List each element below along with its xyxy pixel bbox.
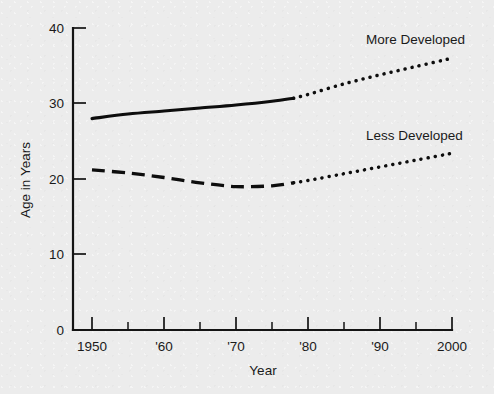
x-tick-label-2000: 2000 (437, 339, 467, 354)
x-tick-label-1980: '80 (299, 339, 317, 354)
x-tick-label-1960: '60 (155, 339, 173, 354)
y-axis-title: Age in Years (18, 142, 33, 218)
y-tick-label-20: 20 (49, 172, 64, 187)
series-annotation-more-developed: More Developed (366, 32, 465, 47)
x-tick-label-1970: '70 (227, 339, 245, 354)
y-tick-label-40: 40 (49, 21, 64, 36)
y-tick-label-0: 0 (56, 323, 64, 338)
series-annotation-less-developed: Less Developed (366, 128, 463, 143)
y-tick-label-30: 30 (49, 96, 64, 111)
chart-figure: 40 30 20 10 0 Age in Years 1950 '60 '70 (0, 0, 494, 394)
line-chart-plot: 40 30 20 10 0 Age in Years 1950 '60 '70 (0, 0, 494, 394)
series-less-developed-actual-line (92, 170, 294, 187)
x-axis-ticks (92, 317, 452, 330)
x-axis-title: Year (249, 363, 277, 378)
series-more-developed-projected-line (294, 58, 452, 98)
y-tick-label-10: 10 (49, 247, 64, 262)
y-axis-ticks (73, 28, 86, 330)
series-less-developed-projected-line (294, 153, 452, 182)
x-axis-tick-labels: 1950 '60 '70 '80 '90 2000 (77, 339, 467, 354)
series-more-developed-actual-line (92, 98, 294, 118)
x-tick-label-1990: '90 (371, 339, 389, 354)
y-axis-tick-labels: 40 30 20 10 0 (49, 21, 64, 338)
series-layer (92, 58, 452, 187)
axis-lines (73, 28, 452, 330)
x-tick-label-1950: 1950 (77, 339, 107, 354)
